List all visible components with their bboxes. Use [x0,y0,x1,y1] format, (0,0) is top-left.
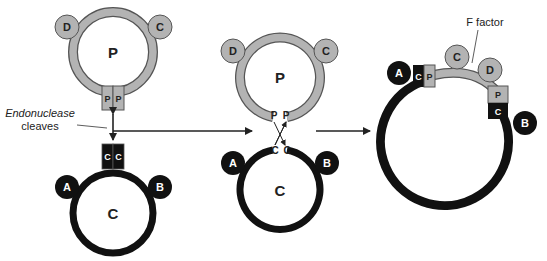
f-factor-leader-line [472,30,478,63]
annotation-leader-line [77,125,107,128]
chromosome-site-boxes: C C [102,144,124,169]
gene-f-c-circle: C [445,45,469,69]
gene-b-label: B [323,157,331,169]
gene-d-circle: D [55,15,79,39]
gene-b-label: B [521,117,529,129]
stage2-plasmid: D C P P P [221,38,338,121]
junction-p-right: P [495,90,501,100]
gene-b-circle: B [148,175,172,199]
gene-c-circle: C [148,15,172,39]
gene-a-label: A [229,157,237,169]
gene-c-label: C [156,21,164,33]
chromosome-center-label: C [275,182,286,199]
gene-a-label: A [63,181,71,193]
gene-d-circle: D [221,39,245,63]
gene-b-circle: B [315,151,339,175]
junction-p-left: P [426,72,432,82]
gene-d-label: D [486,64,494,76]
left-junction-boxes: C P [413,65,435,87]
chromosome-center-label: C [108,205,119,222]
site-c-left: C [271,145,278,156]
site-p-right: P [283,110,290,121]
gene-a-circle: A [221,151,245,175]
right-junction-boxes: P C [488,86,508,119]
gene-a-circle: A [55,175,79,199]
gene-c-label: C [322,45,330,57]
stage3-integrated: A C P C D P C B F factor [381,16,537,206]
gene-a-label: A [395,67,403,79]
site-p-right: P [115,94,121,104]
stage2-chromosome: A B C C C [221,145,339,229]
site-c-left: C [104,152,111,162]
endonuclease-label: Endonuclease [5,107,75,119]
f-factor-label: F factor [466,16,504,28]
gene-b-label: B [156,181,164,193]
gene-c-label: C [453,51,461,63]
integration-diagram: D C P P P A B C C C [0,0,547,261]
gene-a-circle: A [387,61,411,85]
site-p-left: P [271,110,278,121]
gene-f-d-circle: D [478,58,502,82]
crossover-arrows [274,122,286,145]
junction-c-right: C [495,107,502,117]
gene-d-label: D [63,21,71,33]
gene-b-circle: B [513,111,537,135]
site-c-right: C [283,145,290,156]
plasmid-center-label: P [275,69,285,86]
site-c-right: C [115,152,122,162]
gene-d-label: D [229,45,237,57]
plasmid-center-label: P [108,44,118,61]
junction-c-left: C [415,72,422,82]
site-p-left: P [104,94,110,104]
stage1-plasmid: D C P P P [55,12,172,110]
cleaves-label: cleaves [21,120,59,132]
stage1-chromosome: A B C C C [55,144,172,253]
plasmid-site-boxes: P P [102,86,124,110]
gene-c-circle: C [314,39,338,63]
